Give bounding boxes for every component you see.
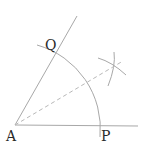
label-a: A bbox=[5, 128, 17, 144]
label-p: P bbox=[101, 128, 110, 144]
bisector-diagram: A P Q bbox=[0, 0, 146, 149]
ray-slanted bbox=[15, 16, 77, 125]
arc-center-a bbox=[37, 45, 100, 137]
bisector-dashed bbox=[15, 61, 123, 125]
arc-from-q bbox=[108, 52, 114, 86]
label-q: Q bbox=[45, 37, 56, 53]
ray-horizontal bbox=[15, 125, 138, 126]
